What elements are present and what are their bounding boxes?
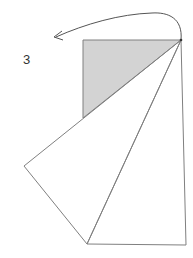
apex-point: [180, 39, 183, 42]
geometry-figure: 3: [0, 0, 193, 258]
figure-canvas: [0, 0, 193, 258]
figure-label: 3: [23, 53, 30, 66]
rotation-arc: [56, 13, 181, 40]
